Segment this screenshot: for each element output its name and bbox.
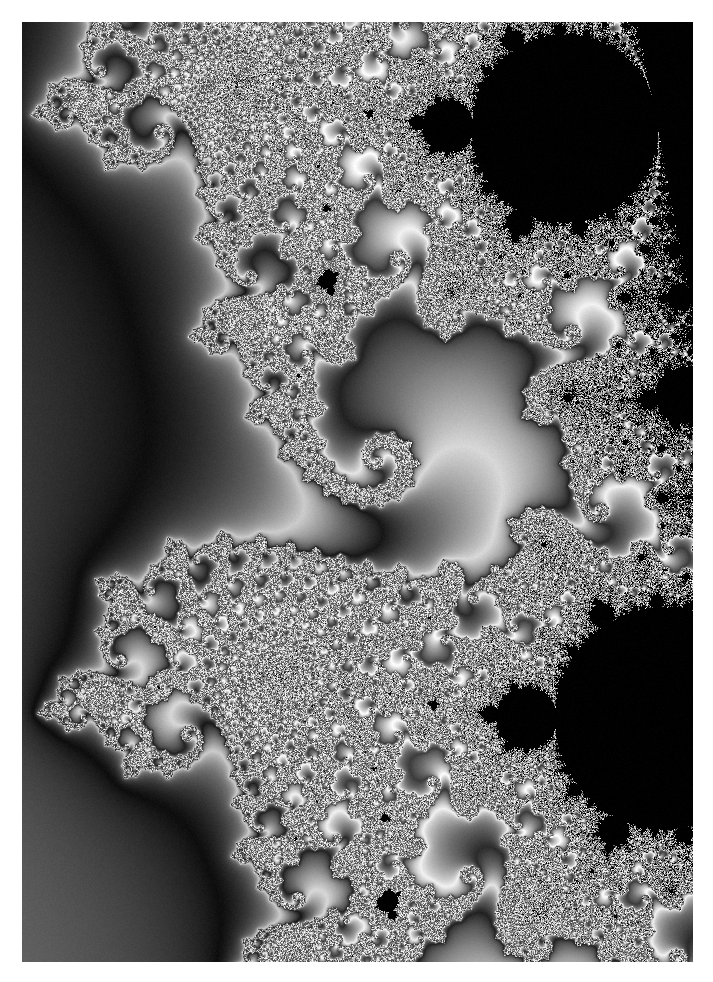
mandelbrot-canvas: [22, 22, 693, 962]
fractal-page: Mandelbrot set detail: [0, 0, 713, 982]
fractal-plate: [22, 22, 693, 962]
